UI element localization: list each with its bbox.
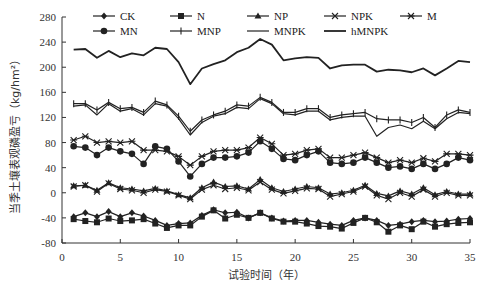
- data-point-MN: [70, 143, 77, 150]
- data-point-MN: [350, 159, 357, 166]
- data-point-MN: [152, 143, 159, 150]
- data-point-CK: [82, 209, 88, 216]
- data-point-MN: [140, 161, 147, 168]
- data-point-N: [315, 223, 321, 229]
- legend-label: MNP: [197, 25, 221, 37]
- series-line-MNPK: [74, 99, 470, 137]
- data-point-M: [82, 133, 89, 139]
- data-point-M: [408, 160, 415, 166]
- data-point-N: [176, 222, 182, 228]
- data-point-MN: [175, 158, 182, 165]
- data-point-N: [211, 207, 217, 213]
- legend-item-N: N: [170, 10, 205, 22]
- data-point-MN: [234, 153, 241, 160]
- legend-label: hMNPK: [351, 25, 388, 37]
- data-point-N: [82, 218, 88, 224]
- data-point-N: [187, 222, 193, 228]
- data-point-N: [420, 219, 426, 225]
- series-NPK: [71, 179, 473, 202]
- data-point-MN: [408, 166, 415, 173]
- data-point-N: [350, 220, 356, 226]
- x-axis-title: 试验时间（年）: [228, 268, 305, 282]
- data-point-N: [106, 216, 112, 222]
- data-point-N: [164, 225, 170, 231]
- data-point-N: [94, 219, 100, 225]
- data-point-M: [117, 140, 124, 146]
- data-point-MN: [187, 173, 194, 180]
- data-point-MN: [327, 159, 334, 166]
- legend-item-MNPK: MNPK: [247, 25, 306, 37]
- data-point-N: [397, 222, 403, 228]
- data-point-CK: [106, 208, 112, 215]
- data-point-MN: [455, 154, 462, 161]
- data-point-MN: [362, 154, 369, 161]
- data-point-M: [233, 147, 240, 153]
- series-line-hMNPK: [74, 39, 470, 84]
- data-point-N: [444, 221, 450, 227]
- data-point-M: [93, 140, 100, 146]
- data-point-MN: [164, 146, 171, 153]
- data-point-N: [71, 216, 77, 222]
- legend-item-NPK: NPK: [324, 10, 373, 22]
- legend-marker: [178, 13, 184, 19]
- data-point-MN: [385, 164, 392, 171]
- data-point-N: [455, 220, 461, 226]
- data-point-MN: [129, 151, 136, 158]
- data-point-MN: [420, 161, 427, 168]
- y-tick-label: -40: [41, 212, 56, 224]
- series-hMNPK: [74, 39, 470, 84]
- y-tick-label: 160: [40, 86, 57, 98]
- data-point-MN: [397, 163, 404, 170]
- data-point-N: [280, 219, 286, 225]
- data-point-MN: [443, 161, 450, 168]
- data-point-N: [327, 224, 333, 230]
- x-tick-label: 25: [348, 251, 360, 263]
- legend-label: CK: [120, 10, 135, 22]
- data-point-CK: [409, 218, 415, 225]
- data-point-CK: [129, 209, 135, 216]
- y-axis-title: 当季土壤表观磷盈亏（kg/hm²）: [8, 54, 22, 214]
- data-point-MN: [432, 166, 439, 173]
- y-tick-label: 80: [45, 137, 57, 149]
- data-point-M: [397, 157, 404, 163]
- data-point-MN: [105, 144, 112, 151]
- data-point-N: [129, 217, 135, 223]
- y-tick-label: -80: [41, 237, 56, 249]
- data-point-N: [152, 221, 158, 227]
- y-tick-label: 120: [40, 111, 57, 123]
- data-point-N: [432, 224, 438, 230]
- legend-marker: [408, 13, 415, 19]
- y-tick-label: 240: [40, 36, 57, 48]
- x-tick-label: 20: [290, 251, 302, 263]
- data-point-M: [350, 152, 357, 158]
- data-point-MN: [304, 152, 311, 159]
- data-point-M: [198, 153, 205, 159]
- legend-item-M: M: [400, 10, 437, 22]
- x-tick-label: 15: [231, 251, 243, 263]
- data-point-MN: [280, 156, 287, 163]
- x-tick-label: 30: [406, 251, 418, 263]
- data-point-M: [128, 138, 135, 144]
- legend-item-MNP: MNP: [170, 25, 221, 37]
- data-point-CK: [222, 209, 228, 216]
- data-point-N: [409, 226, 415, 232]
- legend-label: NP: [274, 10, 288, 22]
- data-point-N: [339, 226, 345, 232]
- legend-label: MNPK: [274, 25, 306, 37]
- data-point-MN: [117, 148, 124, 155]
- legend-marker: [101, 13, 107, 20]
- data-point-N: [374, 219, 380, 225]
- data-point-N: [246, 215, 252, 221]
- data-point-N: [117, 218, 123, 224]
- data-point-M: [140, 147, 147, 153]
- legend-item-NP: NP: [247, 10, 288, 22]
- data-point-M: [222, 147, 229, 153]
- data-point-N: [385, 229, 391, 235]
- x-tick-label: 5: [118, 251, 124, 263]
- series-NP: [70, 176, 473, 200]
- data-point-N: [141, 216, 147, 222]
- data-point-MN: [338, 161, 345, 168]
- data-point-M: [432, 158, 439, 164]
- line-chart: -80-400408012016020024028005101520253035…: [0, 0, 487, 303]
- data-point-N: [362, 215, 368, 221]
